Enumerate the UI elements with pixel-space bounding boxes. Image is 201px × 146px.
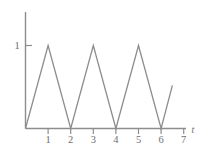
x-axis-label: t [192,124,195,135]
y-tick-label-1: 1 [14,40,19,51]
chart-figure: 1 1 2 3 4 5 6 7 t [0,0,201,146]
x-tick-label-3: 3 [91,134,96,145]
x-tick-label-6: 6 [158,134,163,145]
x-tick-label-4: 4 [113,134,119,145]
triangle-wave-series [26,46,173,129]
x-tick-label-1: 1 [45,134,50,145]
triangle-wave-plot: 1 1 2 3 4 5 6 7 t [0,0,201,146]
x-tick-label-7: 7 [181,134,186,145]
x-tick-label-2: 2 [68,134,73,145]
x-tick-label-5: 5 [136,134,141,145]
